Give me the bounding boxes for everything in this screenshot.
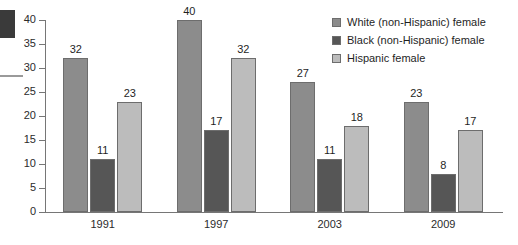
bar: 40 [177, 20, 202, 212]
bar: 27 [290, 82, 315, 212]
bar-value-label: 23 [124, 88, 136, 99]
y-axis-labels: 0510152025303540 [0, 0, 36, 245]
legend-swatch-icon [332, 54, 341, 63]
bar: 17 [458, 130, 483, 212]
bar: 23 [117, 102, 142, 212]
y-axis-tick-label: 5 [2, 182, 36, 193]
bar-value-label: 27 [297, 68, 309, 79]
bar-value-label: 11 [97, 145, 108, 156]
y-axis-tick-label: 20 [2, 110, 36, 121]
bar: 32 [63, 58, 88, 212]
bar-group: 321123 [63, 20, 142, 212]
grouped-bar-chart: 0510152025303540 32112340173227111823817… [0, 0, 518, 245]
bar: 11 [90, 159, 115, 212]
legend-swatch-icon [332, 36, 341, 45]
y-axis-tick-label: 0 [2, 206, 36, 217]
bar-group: 401732 [177, 20, 256, 212]
y-axis-tick-label: 35 [2, 38, 36, 49]
bar-value-label: 11 [324, 145, 335, 156]
chart-screenshot: 0510152025303540 32112340173227111823817… [0, 0, 518, 245]
bar-value-label: 40 [183, 6, 195, 17]
x-axis-tick-label: 1997 [176, 218, 256, 230]
bar: 23 [404, 102, 429, 212]
x-axis-tick-label: 2003 [290, 218, 370, 230]
x-axis-tick-label: 2009 [403, 218, 483, 230]
legend-item-label: White (non-Hispanic) female [347, 16, 486, 28]
y-axis-tick [39, 92, 45, 93]
y-axis-tick [39, 164, 45, 165]
bar-value-label: 32 [237, 44, 249, 55]
y-axis-tick [39, 44, 45, 45]
y-axis-tick-label: 25 [2, 86, 36, 97]
legend-item-label: Black (non-Hispanic) female [347, 34, 485, 46]
legend-item[interactable]: Hispanic female [332, 50, 486, 66]
y-axis-tick [39, 68, 45, 69]
y-axis-tick [39, 140, 45, 141]
x-axis-tick-label: 1991 [63, 218, 143, 230]
y-axis-tick-label: 10 [2, 158, 36, 169]
x-axis-line [45, 212, 503, 213]
legend-swatch-icon [332, 18, 341, 27]
y-axis-tick [39, 20, 45, 21]
y-axis-tick [39, 116, 45, 117]
y-axis-tick [39, 188, 45, 189]
bar-value-label: 17 [210, 116, 222, 127]
y-axis-tick-label: 15 [2, 134, 36, 145]
bar: 17 [204, 130, 229, 212]
y-axis-tick [39, 212, 45, 213]
bar: 8 [431, 174, 456, 212]
y-axis-tick-label: 40 [2, 14, 36, 25]
chart-legend: White (non-Hispanic) femaleBlack (non-Hi… [332, 14, 486, 68]
legend-item[interactable]: Black (non-Hispanic) female [332, 32, 486, 48]
bar-value-label: 17 [464, 116, 476, 127]
bar-value-label: 32 [70, 44, 82, 55]
legend-item-label: Hispanic female [347, 52, 425, 64]
y-axis-tick-label: 30 [2, 62, 36, 73]
bar: 32 [231, 58, 256, 212]
bar: 18 [344, 126, 369, 212]
bar: 11 [317, 159, 342, 212]
legend-item[interactable]: White (non-Hispanic) female [332, 14, 486, 30]
bar-value-label: 8 [440, 160, 446, 171]
bar-value-label: 23 [410, 88, 422, 99]
bar-value-label: 18 [351, 112, 363, 123]
